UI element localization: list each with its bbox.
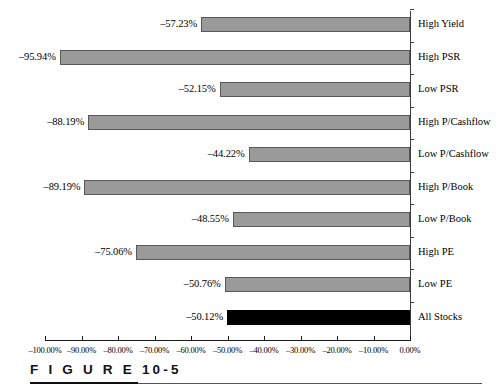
bar-row: –44.22%Low P/Cashflow: [0, 147, 498, 162]
bar-high-psr: [60, 50, 410, 65]
bar-value-label: –50.76%: [167, 276, 221, 291]
bar-all-stocks: [227, 310, 410, 325]
category-label: High PSR: [418, 49, 460, 64]
bar-chart-plot-area: –57.23%High Yield–95.94%High PSR–52.15%L…: [0, 0, 498, 345]
x-axis-tick: [191, 336, 192, 341]
axis-notch: [410, 302, 414, 303]
category-label: High Yield: [418, 16, 464, 31]
bar-value-label: –89.19%: [26, 179, 80, 194]
x-axis-tick: [155, 336, 156, 341]
caption-rule-dark: [30, 382, 138, 384]
category-label: Low P/Cashflow: [418, 146, 489, 161]
category-label: Low PE: [418, 276, 452, 291]
bar-value-label: –88.19%: [30, 114, 84, 129]
x-axis-tick: [410, 336, 411, 341]
x-axis-tick: [228, 336, 229, 341]
bar-row: –50.12%All Stocks: [0, 310, 498, 325]
x-axis-tick: [82, 336, 83, 341]
bar-row: –57.23%High Yield: [0, 17, 498, 32]
bar-high-p-book: [84, 180, 410, 195]
bar-value-label: –95.94%: [2, 49, 56, 64]
bar-high-yield: [201, 17, 410, 32]
category-label: High PE: [418, 244, 454, 259]
category-label: All Stocks: [418, 309, 462, 324]
bar-row: –95.94%High PSR: [0, 50, 498, 65]
axis-notch: [410, 204, 414, 205]
x-axis-tick: [45, 336, 46, 341]
x-axis-tick: [264, 336, 265, 341]
axis-notch: [410, 107, 414, 108]
figure-caption-text: F I G U R E 10-5: [30, 362, 182, 377]
bar-row: –88.19%High P/Cashflow: [0, 115, 498, 130]
bar-value-label: –75.06%: [78, 244, 132, 259]
figure-caption: F I G U R E 10-5: [0, 362, 498, 391]
axis-notch: [410, 172, 414, 173]
x-axis-tick: [301, 336, 302, 341]
x-axis-tick: [118, 336, 119, 341]
x-axis-tick-label: 0.00%: [384, 345, 436, 355]
x-axis-tick: [374, 336, 375, 341]
figure-container: –57.23%High Yield–95.94%High PSR–52.15%L…: [0, 0, 498, 391]
bar-row: –48.55%Low P/Book: [0, 212, 498, 227]
axis-notch: [410, 269, 414, 270]
axis-notch: [410, 74, 414, 75]
bar-value-label: –52.15%: [162, 81, 216, 96]
bar-value-label: –44.22%: [191, 146, 245, 161]
bar-row: –50.76%Low PE: [0, 277, 498, 292]
x-axis-tick: [337, 336, 338, 341]
bar-low-pe: [225, 277, 410, 292]
bar-row: –52.15%Low PSR: [0, 82, 498, 97]
bar-row: –89.19%High P/Book: [0, 180, 498, 195]
bar-value-label: –48.55%: [175, 211, 229, 226]
bar-row: –75.06%High PE: [0, 245, 498, 260]
bar-low-p-book: [233, 212, 410, 227]
category-label: High P/Book: [418, 179, 473, 194]
bar-value-label: –50.12%: [169, 309, 223, 324]
category-label: High P/Cashflow: [418, 114, 491, 129]
bar-low-psr: [220, 82, 410, 97]
bar-low-p-cashflow: [249, 147, 410, 162]
axis-notch: [410, 42, 414, 43]
category-label: Low PSR: [418, 81, 459, 96]
axis-notch: [410, 139, 414, 140]
category-label: Low P/Book: [418, 211, 471, 226]
axis-notch: [410, 9, 414, 10]
axis-notch: [410, 237, 414, 238]
bar-high-p-cashflow: [88, 115, 410, 130]
bar-high-pe: [136, 245, 410, 260]
bar-value-label: –57.23%: [143, 16, 197, 31]
